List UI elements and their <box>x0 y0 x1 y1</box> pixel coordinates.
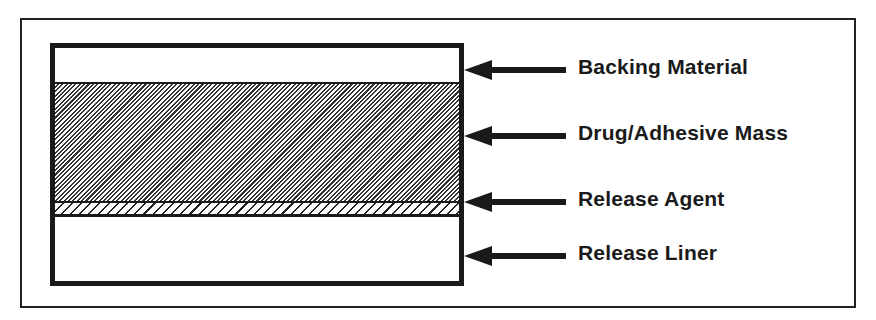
arrow-left-icon <box>464 190 568 214</box>
release-agent-layer <box>55 203 459 217</box>
arrow-left-icon <box>464 124 568 148</box>
label-drug-adhesive-mass: Drug/Adhesive Mass <box>578 121 788 145</box>
label-backing-material: Backing Material <box>578 55 748 79</box>
arrow-left-icon <box>464 244 568 268</box>
label-release-liner: Release Liner <box>578 241 717 265</box>
label-release-agent: Release Agent <box>578 187 725 211</box>
drug-adhesive-mass-layer <box>55 84 459 203</box>
release-liner-layer <box>55 217 459 281</box>
backing-material-layer <box>55 48 459 84</box>
patch-cross-section <box>50 43 464 286</box>
arrow-left-icon <box>464 58 568 82</box>
